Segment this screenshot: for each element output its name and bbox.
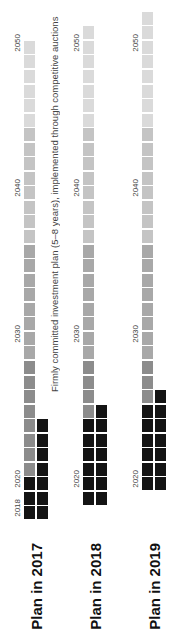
committed-cell-2024 (155, 419, 166, 432)
committed-bar-2019 (155, 0, 166, 633)
year-cell-2030 (142, 332, 153, 345)
committed-cell-2024 (37, 419, 48, 432)
year-cell-2045 (142, 114, 153, 127)
year-cell-2027 (83, 376, 94, 389)
year-cell-2038 (24, 215, 35, 228)
year-cell-2028 (83, 361, 94, 374)
year-cell-2027 (142, 376, 153, 389)
year-cell-2035 (83, 259, 94, 272)
year-cell-2043 (83, 143, 94, 156)
year-cell-2030 (24, 332, 35, 345)
year-label-2030-plan-2018: 2030 (73, 325, 81, 343)
year-cell-2037 (24, 230, 35, 243)
year-cell-2040 (83, 186, 94, 199)
year-cell-2024 (24, 419, 35, 432)
year-cell-2026 (24, 390, 35, 403)
plan-column-2017 (24, 0, 35, 633)
year-label-2020-plan-2018: 2020 (73, 470, 81, 488)
year-cell-2049 (83, 55, 94, 68)
committed-cell-2020 (96, 477, 107, 490)
plan-label-2017: Plan in 2017 (29, 543, 45, 630)
year-cell-2036 (24, 245, 35, 258)
year-cell-2022 (83, 448, 94, 461)
year-cell-2040 (142, 186, 153, 199)
year-cell-2031 (142, 317, 153, 330)
year-cell-2039 (83, 201, 94, 214)
year-cell-2039 (24, 201, 35, 214)
year-label-2050-plan-2018: 2050 (73, 34, 81, 52)
year-cell-2037 (83, 230, 94, 243)
year-cell-2033 (142, 288, 153, 301)
year-cell-2032 (83, 303, 94, 316)
year-cell-2024 (142, 419, 153, 432)
year-label-2050-plan-2017: 2050 (14, 34, 22, 52)
year-cell-2042 (142, 157, 153, 170)
year-cell-2028 (24, 361, 35, 374)
year-cell-2050 (142, 41, 153, 54)
year-label-2040-plan-2017: 2040 (14, 179, 22, 197)
committed-cell-2022 (37, 448, 48, 461)
year-cell-2039 (142, 201, 153, 214)
year-cell-2038 (142, 215, 153, 228)
year-cell-2049 (24, 55, 35, 68)
year-cell-2020 (83, 477, 94, 490)
year-cell-2034 (24, 274, 35, 287)
year-cell-2034 (83, 274, 94, 287)
year-cell-2023 (83, 434, 94, 447)
year-cell-2022 (24, 448, 35, 461)
committed-bar-2018 (96, 0, 107, 633)
year-cell-2018 (24, 506, 35, 519)
plan-label-2019: Plan in 2019 (147, 543, 163, 630)
year-cell-2051 (83, 26, 94, 39)
year-cell-2046 (24, 99, 35, 112)
year-cell-2051 (142, 26, 153, 39)
year-cell-2029 (142, 346, 153, 359)
year-cell-2046 (83, 99, 94, 112)
committed-plan-annotation: Firmly committed investment plan (5–8 ye… (50, 7, 60, 402)
year-cell-2045 (83, 114, 94, 127)
committed-cell-2021 (96, 463, 107, 476)
year-cell-2045 (24, 114, 35, 127)
year-cell-2035 (24, 259, 35, 272)
year-cell-2027 (24, 376, 35, 389)
year-label-2020-plan-2017: 2020 (14, 470, 22, 488)
year-label-2040-plan-2019: 2040 (132, 179, 140, 197)
committed-cell-2021 (155, 463, 166, 476)
year-cell-2028 (142, 361, 153, 374)
committed-cell-2023 (37, 434, 48, 447)
year-cell-2031 (83, 317, 94, 330)
year-cell-2047 (83, 85, 94, 98)
year-label-2030-plan-2017: 2030 (14, 325, 22, 343)
year-cell-2022 (142, 448, 153, 461)
year-cell-2050 (24, 41, 35, 54)
year-cell-2043 (142, 143, 153, 156)
committed-cell-2026 (155, 390, 166, 403)
committed-cell-2025 (155, 405, 166, 418)
year-cell-2048 (83, 70, 94, 83)
year-cell-2047 (24, 85, 35, 98)
year-label-2050-plan-2019: 2050 (132, 34, 140, 52)
year-cell-2037 (142, 230, 153, 243)
year-cell-2032 (142, 303, 153, 316)
year-cell-2049 (142, 55, 153, 68)
year-cell-2044 (142, 128, 153, 141)
year-cell-2042 (83, 157, 94, 170)
year-cell-2046 (142, 99, 153, 112)
plan-label-2018: Plan in 2018 (88, 543, 104, 630)
year-cell-2020 (142, 477, 153, 490)
year-cell-2032 (24, 303, 35, 316)
committed-cell-2025 (96, 405, 107, 418)
committed-cell-2022 (96, 448, 107, 461)
year-cell-2050 (83, 41, 94, 54)
plan-column-2019 (142, 0, 153, 633)
committed-cell-2019 (96, 492, 107, 505)
committed-cell-2019 (37, 492, 48, 505)
year-label-2018-plan-2017: 2018 (14, 499, 22, 517)
year-label-2020-plan-2019: 2020 (132, 470, 140, 488)
year-cell-2025 (24, 405, 35, 418)
year-cell-2021 (83, 463, 94, 476)
year-cell-2019 (24, 492, 35, 505)
committed-bar-2017 (37, 0, 48, 633)
year-label-2030-plan-2019: 2030 (132, 325, 140, 343)
year-cell-2038 (83, 215, 94, 228)
